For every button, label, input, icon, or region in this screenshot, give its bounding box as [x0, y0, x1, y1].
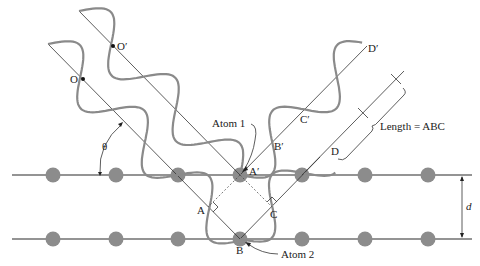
label-D-prime: D′ — [368, 42, 378, 54]
atom — [358, 168, 373, 183]
atom2-leader — [248, 244, 278, 254]
label-B: B — [236, 244, 243, 256]
atom — [295, 232, 310, 247]
atom — [46, 232, 61, 247]
reflected-wave-atom1 — [240, 41, 362, 178]
theta-arrow-top — [118, 122, 123, 127]
label-C-prime: C′ — [300, 113, 310, 125]
d-arrow-top — [460, 176, 464, 181]
label-length-ABC: Length = ABC — [380, 120, 445, 132]
d-arrow-bottom — [460, 233, 464, 238]
label-atom1: Atom 1 — [212, 117, 245, 129]
label-C: C — [270, 208, 277, 220]
atom — [421, 168, 436, 183]
atom2-leader-arrow — [245, 242, 251, 247]
atom1-leader — [244, 124, 256, 170]
atom — [109, 168, 124, 183]
label-O-prime: O′ — [117, 40, 127, 52]
label-A-prime: A′ — [249, 165, 259, 177]
atom — [171, 232, 186, 247]
atom — [46, 168, 61, 183]
bragg-diffraction-diagram: O O′ Atom 1 Atom 2 A A′ B B′ C C′ D D′ θ… — [0, 0, 480, 266]
reflected-wave-atom2 — [240, 171, 335, 242]
label-A: A — [197, 204, 205, 216]
label-atom2: Atom 2 — [281, 248, 314, 260]
right-angle-mark-A — [213, 202, 218, 212]
label-d: d — [466, 200, 472, 212]
label-theta: θ — [102, 140, 107, 152]
label-B-prime: B′ — [274, 140, 284, 152]
label-O: O — [70, 73, 78, 85]
atom — [358, 232, 373, 247]
atom — [421, 232, 436, 247]
point-O — [81, 77, 85, 81]
label-D: D — [331, 145, 339, 157]
point-O-prime — [111, 44, 115, 48]
atom — [109, 232, 124, 247]
